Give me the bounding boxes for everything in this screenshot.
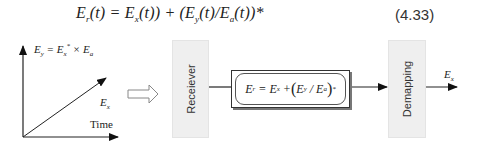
hollow-arrow-icon: [128, 85, 158, 103]
output-label: Ex: [444, 68, 454, 83]
receiver-block: Receiever: [172, 40, 209, 138]
y-axis-label: Ey = Ex* × Ea: [34, 42, 93, 58]
formula-text: Er = Ex +(Ey / Ea)*: [235, 73, 346, 105]
demapping-block: Demapping: [388, 40, 426, 138]
receiver-label: Receiever: [185, 64, 197, 114]
formula-block: Er = Ex +(Ey / Ea)* Er = Ex + (Ey / Ea)*: [231, 70, 350, 108]
demapping-label: Demapping: [401, 61, 413, 117]
x-axis-label: Time: [90, 118, 113, 130]
line-label: Ex: [100, 96, 110, 111]
